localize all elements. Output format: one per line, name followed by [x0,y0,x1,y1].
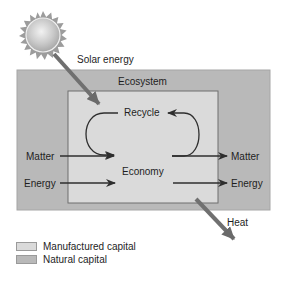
ecosystem-label: Ecosystem [118,76,167,88]
manufactured-capital-swatch [16,242,37,251]
legend-label: Manufactured capital [43,241,136,252]
heat-label: Heat [227,217,248,229]
solar-energy-label: Solar energy [77,54,134,66]
energy-out-label: Energy [231,178,263,190]
energy-in-label: Energy [24,178,56,190]
legend-label: Natural capital [43,254,107,265]
matter-in-label: Matter [26,151,54,163]
legend-item-natural-capital: Natural capital [16,253,136,266]
matter-out-label: Matter [231,151,259,163]
recycle-label: Recycle [124,107,160,119]
sun-icon [19,11,67,60]
legend: Manufactured capital Natural capital [16,240,136,266]
economy-label: Economy [122,166,164,178]
legend-item-manufactured-capital: Manufactured capital [16,240,136,253]
natural-capital-swatch [16,255,37,264]
